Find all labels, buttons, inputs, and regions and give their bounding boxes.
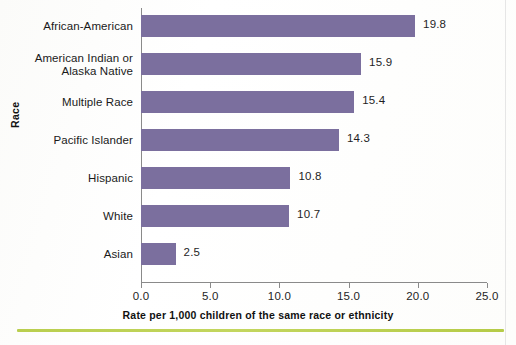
bottom-accent-rule (17, 329, 504, 332)
bar-row[interactable]: 19.8 (141, 15, 487, 37)
bar-value-label: 14.3 (347, 132, 370, 144)
bar-value-label: 19.8 (423, 18, 446, 30)
category-label-column: African-AmericanAmerican Indian orAlaska… (0, 8, 133, 282)
bar[interactable] (141, 129, 339, 151)
category-label: African-American (0, 20, 133, 33)
category-label: Pacific Islander (0, 134, 133, 147)
category-label: Asian (0, 248, 133, 261)
category-label-line: Alaska Native (0, 65, 133, 78)
bar-row[interactable]: 10.8 (141, 167, 487, 189)
bar-value-label: 10.7 (297, 208, 320, 220)
category-label-line: Hispanic (0, 172, 133, 185)
chart-page: Race African-AmericanAmerican Indian orA… (0, 0, 516, 345)
bar-value-label: 2.5 (184, 246, 201, 258)
x-axis-tick (418, 283, 419, 288)
x-axis-tick-label: 25.0 (457, 290, 516, 302)
bar[interactable] (141, 53, 361, 75)
x-axis-title: Rate per 1,000 children of the same race… (0, 309, 516, 321)
bar[interactable] (141, 15, 415, 37)
plot-area: 0.05.010.015.020.025.019.815.915.414.310… (141, 8, 487, 282)
x-axis-tick (349, 283, 350, 288)
category-label: Hispanic (0, 172, 133, 185)
x-axis-tick (279, 283, 280, 288)
category-label-line: Asian (0, 248, 133, 261)
bar-value-label: 15.9 (369, 56, 392, 68)
category-label-line: Pacific Islander (0, 134, 133, 147)
bar[interactable] (141, 167, 290, 189)
x-axis-tick (487, 283, 488, 288)
bar-row[interactable]: 15.9 (141, 53, 487, 75)
x-axis-tick-label: 5.0 (180, 290, 240, 302)
category-label: White (0, 210, 133, 223)
x-axis-tick (141, 283, 142, 288)
x-axis-line (141, 282, 487, 283)
bar-row[interactable]: 14.3 (141, 129, 487, 151)
category-label-line: African-American (0, 20, 133, 33)
category-label: Multiple Race (0, 96, 133, 109)
category-label-line: White (0, 210, 133, 223)
x-axis-tick-label: 0.0 (111, 290, 171, 302)
bar-row[interactable]: 15.4 (141, 91, 487, 113)
category-label-line: Multiple Race (0, 96, 133, 109)
bar[interactable] (141, 91, 354, 113)
bar-row[interactable]: 2.5 (141, 243, 487, 265)
category-label: American Indian orAlaska Native (0, 52, 133, 77)
x-axis-tick (210, 283, 211, 288)
bar[interactable] (141, 205, 289, 227)
x-axis-tick-label: 10.0 (249, 290, 309, 302)
bar-value-label: 15.4 (362, 94, 385, 106)
bar-row[interactable]: 10.7 (141, 205, 487, 227)
bar-value-label: 10.8 (298, 170, 321, 182)
x-axis-tick-label: 15.0 (319, 290, 379, 302)
category-label-line: American Indian or (0, 52, 133, 65)
x-axis-tick-label: 20.0 (388, 290, 448, 302)
bar[interactable] (141, 243, 176, 265)
